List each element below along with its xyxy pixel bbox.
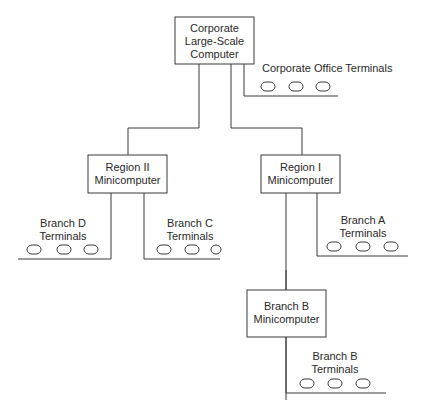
label-line: Terminals: [328, 227, 398, 240]
branch-d-terminals: [27, 245, 98, 254]
terminal-icon: [356, 379, 370, 388]
label-line: Branch D: [28, 217, 98, 230]
terminal-icon: [356, 242, 370, 251]
terminal-icon: [261, 82, 275, 91]
terminal-icon: [384, 242, 398, 251]
corporate-office-terminals-label: Corporate Office Terminals: [262, 62, 392, 75]
link-corporate-region2: [128, 64, 199, 155]
corporate-office-terminals: [261, 82, 330, 91]
label-line: Minicomputer: [261, 174, 340, 187]
label-line: Minicomputer: [247, 313, 326, 326]
label-line: Corporate: [175, 22, 254, 35]
label-line: Terminals: [155, 230, 225, 243]
terminal-icon: [289, 82, 303, 91]
terminal-icon: [211, 245, 221, 254]
region1-label: Region I Minicomputer: [261, 161, 340, 187]
branch-b-terminals-label: Branch B Terminals: [300, 350, 370, 376]
label-line: Region I: [261, 161, 340, 174]
branch-d-terminals-label: Branch D Terminals: [28, 217, 98, 243]
branch-c-terminals: [157, 245, 221, 254]
label-line: Computer: [175, 48, 254, 61]
branch-a-terminals-label: Branch A Terminals: [328, 214, 398, 240]
terminal-icon: [316, 82, 330, 91]
label-line: Branch C: [155, 217, 225, 230]
corporate-computer-label: Corporate Large-Scale Computer: [175, 22, 254, 61]
terminal-icon: [84, 245, 98, 254]
terminal-icon: [327, 242, 341, 251]
link-corporate-region1: [231, 64, 302, 155]
branch-b-terminals: [300, 379, 370, 388]
label-line: Terminals: [28, 230, 98, 243]
branch-c-terminals-label: Branch C Terminals: [155, 217, 225, 243]
label-line: Branch B: [300, 350, 370, 363]
label-line: Region II: [88, 161, 167, 174]
terminal-icon: [27, 245, 41, 254]
label-line: Branch A: [328, 214, 398, 227]
label-line: Branch B: [247, 300, 326, 313]
branchB-minicomputer-label: Branch B Minicomputer: [247, 300, 326, 326]
terminal-icon: [328, 379, 342, 388]
label-line: Terminals: [300, 363, 370, 376]
branch-a-terminals: [327, 242, 398, 251]
label-line: Minicomputer: [88, 174, 167, 187]
terminal-icon: [185, 245, 199, 254]
label-line: Large-Scale: [175, 35, 254, 48]
terminal-icon: [157, 245, 171, 254]
terminal-icon: [300, 379, 314, 388]
terminal-icon: [57, 245, 71, 254]
region2-label: Region II Minicomputer: [88, 161, 167, 187]
